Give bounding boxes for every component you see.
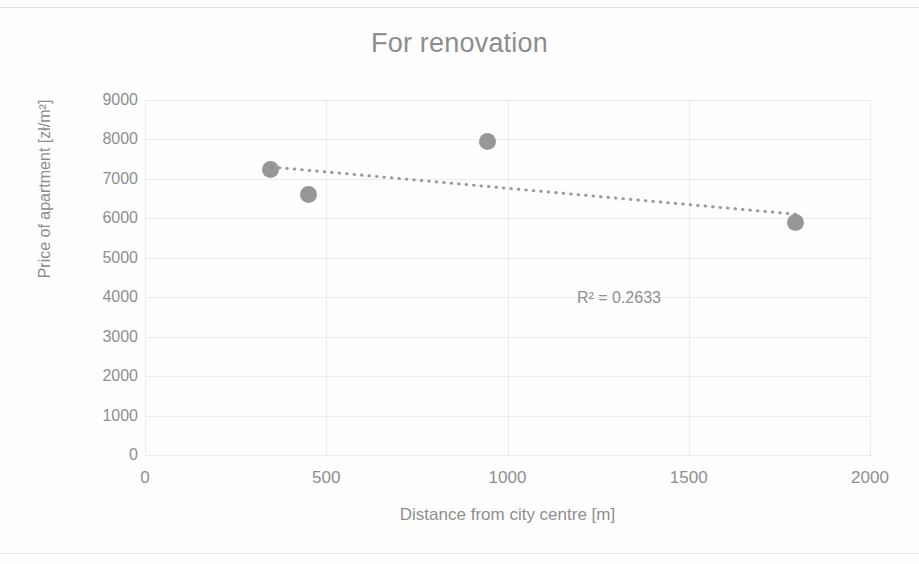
y-axis-tick-label: 2000 xyxy=(60,368,138,384)
y-axis-tick-label: 7000 xyxy=(60,171,138,187)
x-axis-tick-label: 1500 xyxy=(649,468,729,488)
scan-artifact-line-top xyxy=(0,7,919,8)
x-axis-tick-label: 1000 xyxy=(468,468,548,488)
y-axis-tick-label: 1000 xyxy=(60,408,138,424)
y-axis-tick-label: 8000 xyxy=(60,131,138,147)
r-squared-annotation: R² = 0.2633 xyxy=(577,289,661,307)
x-axis-tick-labels: 0500100015002000 xyxy=(145,468,870,492)
scan-artifact-line-bottom xyxy=(0,553,919,554)
scatter-chart: For renovation 0100020003000400050006000… xyxy=(0,0,919,564)
chart-title: For renovation xyxy=(0,28,919,59)
scatter-point xyxy=(262,161,279,178)
scatter-point xyxy=(479,133,496,150)
y-axis-tick-label: 0 xyxy=(60,447,138,463)
scatter-point xyxy=(787,214,804,231)
trendline-path xyxy=(272,167,798,214)
x-axis-tick-label: 2000 xyxy=(830,468,910,488)
trendline xyxy=(145,100,870,455)
y-axis-tick-label: 9000 xyxy=(60,92,138,108)
x-axis-title: Distance from city centre [m] xyxy=(145,505,870,525)
y-axis-tick-label: 5000 xyxy=(60,250,138,266)
y-axis-tick-label: 3000 xyxy=(60,329,138,345)
gridline-vertical xyxy=(870,100,871,455)
x-axis-tick-label: 0 xyxy=(105,468,185,488)
scatter-point xyxy=(300,186,317,203)
y-axis-title: Price of apartment [zł/m²] xyxy=(36,74,54,304)
gridline-horizontal xyxy=(145,455,870,456)
y-axis-tick-label: 4000 xyxy=(60,289,138,305)
plot-area xyxy=(145,100,870,455)
y-axis-tick-labels: 0100020003000400050006000700080009000 xyxy=(50,100,138,455)
y-axis-tick-label: 6000 xyxy=(60,210,138,226)
x-axis-tick-label: 500 xyxy=(286,468,366,488)
